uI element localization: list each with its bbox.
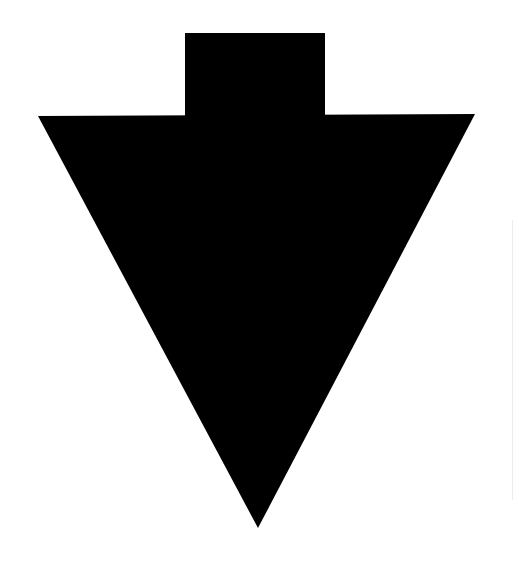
arrow-stem xyxy=(185,33,325,117)
arrow-head xyxy=(38,114,475,528)
arrow-down-icon xyxy=(0,0,514,562)
figure-canvas xyxy=(0,0,514,562)
scan-edge-line xyxy=(512,220,513,500)
